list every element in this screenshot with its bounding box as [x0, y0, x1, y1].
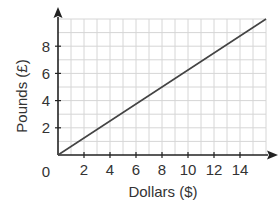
x-tick-label: 8	[158, 161, 166, 178]
conversion-line-chart: 24681012142468 0 Dollars ($) Pounds (£)	[0, 0, 280, 206]
axis-ticks: 24681012142468	[42, 38, 249, 178]
y-tick-label: 6	[42, 65, 50, 82]
y-axis-label: Pounds (£)	[13, 59, 30, 132]
x-tick-label: 4	[106, 161, 114, 178]
x-tick-label: 10	[180, 161, 197, 178]
y-tick-label: 8	[42, 38, 50, 55]
y-axis-arrow-icon	[54, 7, 63, 18]
origin-label: 0	[42, 163, 50, 180]
x-axis-label: Dollars ($)	[128, 183, 197, 200]
x-tick-label: 12	[206, 161, 223, 178]
y-tick-label: 2	[42, 119, 50, 136]
y-tick-label: 4	[42, 92, 50, 109]
x-tick-label: 2	[80, 161, 88, 178]
x-tick-label: 6	[132, 161, 140, 178]
x-axis-arrow-icon	[267, 151, 278, 160]
x-tick-label: 14	[232, 161, 249, 178]
